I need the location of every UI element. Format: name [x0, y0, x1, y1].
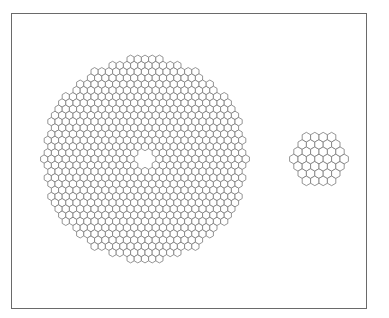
small-segmented-array — [290, 132, 349, 185]
hex-segment — [242, 155, 249, 163]
hex-segment — [235, 117, 242, 125]
large-segmented-array — [41, 55, 250, 263]
hex-segment — [235, 192, 242, 200]
hex-segment — [340, 154, 348, 164]
hex-segment — [239, 174, 246, 182]
diagram-canvas — [0, 0, 389, 318]
hex-segment — [239, 136, 246, 144]
